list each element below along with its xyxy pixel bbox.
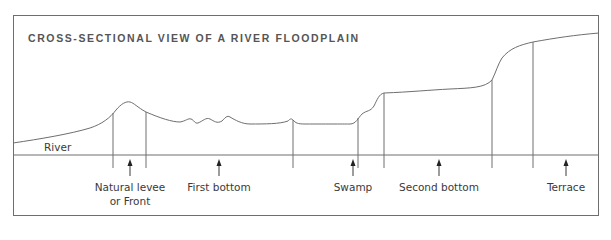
- zone-label-line: Natural levee: [80, 180, 180, 194]
- zone-label-natural-levee: Natural levee or Front: [80, 180, 180, 208]
- zone-label-terrace: Terrace: [516, 180, 611, 194]
- zone-label-line: or Front: [80, 194, 180, 208]
- arrow-up-icon: [437, 159, 442, 176]
- zone-label-first-bottom: First bottom: [169, 180, 269, 194]
- terrain-profile-line: [13, 33, 599, 143]
- zone-label-swamp: Swamp: [303, 180, 403, 194]
- arrow-up-icon: [351, 159, 356, 176]
- arrow-up-icon: [564, 159, 569, 176]
- river-label: River: [44, 140, 71, 154]
- arrow-up-icon: [128, 159, 133, 176]
- zone-label-second-bottom: Second bottom: [389, 180, 489, 194]
- arrow-up-icon: [217, 159, 222, 176]
